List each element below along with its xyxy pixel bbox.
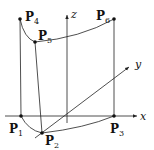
point-p1-label: P1 xyxy=(9,122,23,138)
point-p2-dot xyxy=(40,131,44,135)
diagram-canvas: x y z P4 P5 P6 P1 P2 P3 xyxy=(0,0,154,150)
point-p6-label: P6 xyxy=(96,9,110,25)
point-p4-label: P4 xyxy=(25,10,39,26)
edge-p1-p4 xyxy=(20,19,21,116)
z-axis-label: z xyxy=(70,8,77,21)
point-p1-dot xyxy=(19,114,23,118)
point-p2-label: P2 xyxy=(45,134,59,150)
point-p6-dot xyxy=(112,17,116,21)
edge-p2-p5 xyxy=(35,42,42,133)
point-p4-dot xyxy=(18,17,22,21)
y-axis-label: y xyxy=(134,58,142,71)
x-axis-label: x xyxy=(140,110,147,123)
curve-p1-p2-p3 xyxy=(21,116,114,133)
point-p5-dot xyxy=(33,40,37,44)
point-p3-dot xyxy=(112,114,116,118)
point-p3-label: P3 xyxy=(110,122,124,138)
point-p5-label: P5 xyxy=(38,29,52,45)
